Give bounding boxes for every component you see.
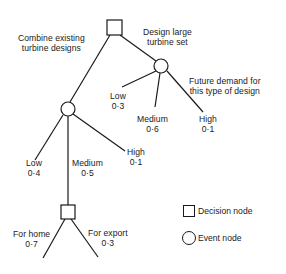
decision-node-square-icon	[183, 205, 195, 217]
branch-label-right-high: High 0·1	[199, 115, 217, 134]
left-event-node	[61, 102, 75, 116]
legend-decision-node: Decision node	[183, 205, 252, 217]
option-label-line2: turbine designs	[18, 44, 85, 54]
branch-label-left-low: Low 0·4	[26, 159, 42, 178]
branch-probability: 0·5	[72, 169, 103, 179]
branch-probability: 0·4	[26, 169, 42, 179]
branch-probability: 0·1	[127, 158, 145, 168]
option-label-line2: turbine set	[143, 38, 192, 48]
branch-right-medium	[155, 73, 160, 107]
legend-event-node: Event node	[182, 231, 241, 245]
branch-probability: 0·7	[13, 240, 50, 250]
branch-label-right-low: Low 0·3	[110, 92, 126, 111]
bottom-decision-node	[61, 205, 75, 219]
branch-label-left-medium: Medium 0·5	[72, 159, 103, 178]
option-label-combine-existing: Combine existing turbine designs	[18, 34, 85, 53]
branch-right-low	[122, 71, 156, 87]
caption-line2: this type of design	[189, 87, 261, 97]
option-label-design-large: Design large turbine set	[143, 28, 192, 47]
branch-probability: 0·3	[110, 102, 126, 112]
branch-probability: 0·3	[88, 239, 128, 249]
branch-probability: 0·1	[199, 125, 217, 135]
right-event-node	[154, 59, 168, 73]
legend-decision-label: Decision node	[198, 206, 252, 216]
event-caption-future-demand: Future demand for this type of design	[189, 77, 261, 96]
root-decision-node	[107, 20, 122, 35]
branch-label-for-export: For export 0·3	[88, 229, 128, 248]
branch-left-high	[73, 114, 125, 151]
branch-label-right-medium: Medium 0·6	[137, 115, 168, 134]
branch-probability: 0·6	[137, 125, 168, 135]
branch-label-for-home: For home 0·7	[13, 230, 50, 249]
event-node-circle-icon	[182, 231, 196, 245]
branch-left-low	[35, 115, 63, 160]
legend-event-label: Event node	[198, 233, 241, 243]
branch-label-left-high: High 0·1	[127, 148, 145, 167]
